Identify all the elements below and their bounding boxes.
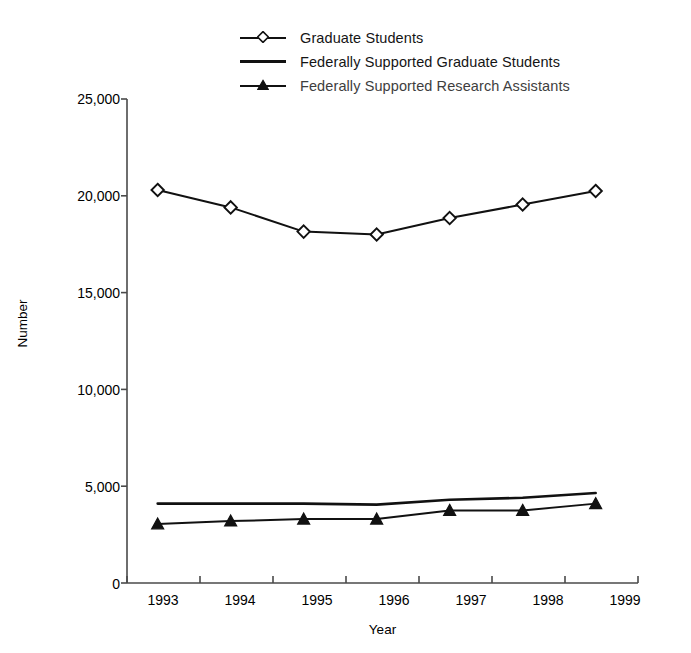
series-line [158, 493, 596, 505]
data-series-layer [151, 184, 601, 529]
data-point-marker [443, 212, 455, 224]
x-tick-label: 1994 [200, 592, 280, 608]
y-axis-ticks [121, 99, 127, 583]
x-tick-label: 1997 [431, 592, 511, 608]
x-tick-label: 1995 [277, 592, 357, 608]
chart-figure: Graduate Students Federally Supported Gr… [0, 0, 691, 653]
data-point-marker [589, 185, 601, 197]
data-point-marker [224, 201, 236, 213]
x-tick-label: 1993 [123, 592, 203, 608]
data-point-marker [151, 184, 163, 196]
x-tick-label: 1998 [508, 592, 588, 608]
x-tick-label: 1999 [585, 592, 665, 608]
data-point-marker [516, 198, 528, 210]
series-graduate-students [151, 184, 601, 241]
series-federally-supported-research-assistants [152, 498, 602, 529]
plot-area [0, 0, 691, 653]
series-federally-supported-graduate-students [158, 493, 596, 505]
data-point-marker [297, 225, 309, 237]
x-axis-ticks [127, 576, 638, 583]
x-axis-title: Year [127, 622, 638, 637]
x-tick-label: 1996 [354, 592, 434, 608]
axis-lines [127, 99, 638, 583]
data-point-marker [370, 228, 382, 240]
